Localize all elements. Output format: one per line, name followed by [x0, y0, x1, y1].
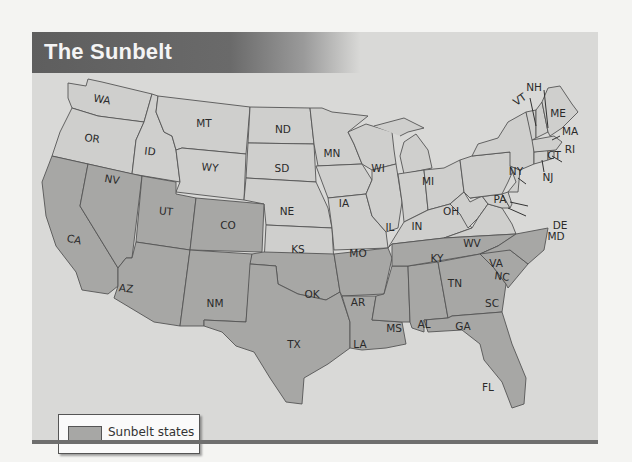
leader-line-md — [508, 208, 526, 216]
label-fl: FL — [482, 381, 494, 393]
label-pa: PA — [494, 193, 508, 205]
label-ri: RI — [565, 143, 575, 155]
state-nm — [180, 250, 252, 326]
label-ct: CT — [547, 149, 561, 161]
map-figure: The Sunbelt — [32, 32, 598, 444]
label-ma: MA — [562, 125, 579, 137]
label-mt: MT — [196, 117, 212, 129]
label-md: MD — [547, 230, 564, 242]
state-pa — [460, 152, 516, 198]
label-sd: SD — [275, 162, 290, 174]
label-tn: TN — [447, 277, 462, 289]
legend: Sunbelt states — [58, 414, 200, 454]
label-ky: KY — [431, 252, 445, 264]
label-in: IN — [412, 220, 423, 232]
leader-line-de — [510, 202, 528, 206]
label-id: ID — [144, 144, 156, 157]
label-or: OR — [84, 131, 101, 145]
label-al: AL — [417, 318, 430, 330]
bottom-rule — [32, 440, 598, 444]
label-wi: WI — [371, 162, 384, 174]
label-ny: NY — [509, 165, 524, 177]
label-nh: NH — [526, 81, 542, 93]
label-ar: AR — [351, 296, 365, 308]
label-ia: IA — [339, 197, 350, 209]
label-mi: MI — [422, 175, 434, 187]
label-il: IL — [386, 221, 395, 233]
us-map: WA OR CA NV ID MT WY UT AZ CO NM ND SD N… — [32, 32, 598, 444]
label-nm: NM — [207, 297, 224, 309]
label-tx: TX — [286, 338, 301, 350]
label-la: LA — [353, 338, 367, 350]
state-wy — [176, 148, 246, 200]
label-ga: GA — [455, 320, 471, 332]
label-az: AZ — [118, 281, 134, 294]
legend-label: Sunbelt states — [108, 425, 194, 439]
label-nc: NC — [494, 269, 511, 283]
label-mn: MN — [324, 147, 341, 159]
label-co: CO — [220, 219, 236, 231]
label-nd: ND — [275, 123, 291, 135]
label-ks: KS — [291, 243, 305, 255]
label-va: VA — [489, 257, 504, 269]
label-sc: SC — [485, 297, 499, 309]
label-wy: WY — [201, 160, 219, 173]
state-ia — [316, 164, 372, 198]
label-me: ME — [550, 107, 566, 119]
label-wv: WV — [463, 237, 481, 249]
label-oh: OH — [443, 205, 459, 217]
label-ut: UT — [159, 204, 175, 217]
label-nj: NJ — [543, 171, 554, 183]
label-mo: MO — [349, 247, 366, 259]
state-fl — [424, 312, 526, 408]
label-ok: OK — [304, 288, 320, 300]
label-ne: NE — [280, 205, 295, 217]
label-ms: MS — [386, 322, 402, 334]
